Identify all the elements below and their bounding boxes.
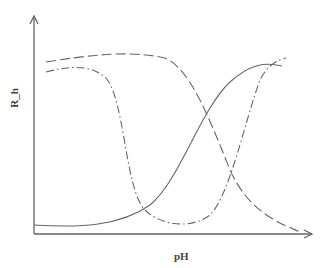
- x-axis-label: pH: [174, 250, 189, 262]
- series-solid: [34, 64, 282, 226]
- series-dash-dot: [46, 58, 286, 224]
- chart-plot: [0, 0, 328, 268]
- series-dashed: [46, 54, 300, 232]
- y-axis-label: R_h: [8, 88, 20, 108]
